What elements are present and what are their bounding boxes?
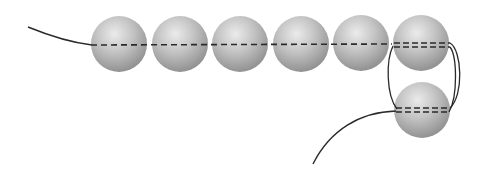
bead-group	[91, 15, 450, 138]
beading-diagram	[0, 0, 488, 177]
bead-3	[212, 16, 268, 72]
bead-5	[333, 15, 389, 71]
bead-1	[91, 16, 147, 72]
thread-tail-end	[313, 111, 396, 164]
bead-2	[152, 16, 208, 72]
bead-7	[394, 82, 450, 138]
thread-tail-start	[28, 27, 92, 45]
